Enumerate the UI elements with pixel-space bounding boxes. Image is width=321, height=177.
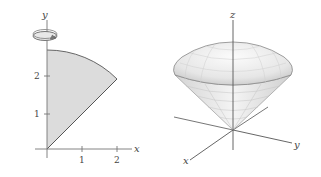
right-plot: z x y [174,9,300,166]
x-axis-3d [190,130,233,160]
y-tick-label-2: 2 [34,71,40,81]
y-axis-3d [233,130,292,143]
x-tick-label-2: 2 [114,155,120,165]
y-axis-label-3d: y [293,139,300,150]
shaded-region [47,50,117,149]
x-axis-label-3d: x [183,155,189,166]
y-axis-label: y [41,9,48,20]
rotate-around-y-axis-icon [33,30,57,41]
x-tick-label-1: 1 [79,155,85,165]
x-axis-label: x [134,143,140,154]
figure: 1 2 1 2 x y [0,0,321,177]
left-plot: 1 2 1 2 x y [33,9,140,165]
z-axis-label-3d: z [229,9,236,20]
y-tick-label-1: 1 [34,109,40,119]
